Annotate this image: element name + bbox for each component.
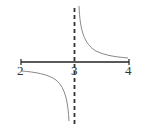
hyperbola-chart: 2 3 4	[0, 0, 141, 128]
tick-label-4: 4	[125, 63, 132, 78]
tick-label-2: 2	[17, 63, 24, 78]
curve-right-branch	[79, 6, 128, 58]
curve-left-branch	[22, 71, 69, 121]
tick-label-3: 3	[71, 63, 78, 78]
